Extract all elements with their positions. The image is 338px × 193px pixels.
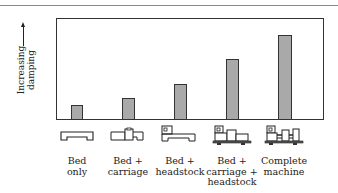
y-label-line-1: Increasing [16, 46, 26, 94]
label-line: machine [254, 167, 314, 178]
label-line: Complete [254, 156, 314, 167]
category-label-bed-carriage-headstock: Bed + carriage + headstock [202, 156, 262, 188]
label-line: headstock [150, 167, 210, 178]
bed-carriage-icon [109, 125, 147, 145]
top-rule [0, 5, 338, 6]
bar-bed-headstock [174, 84, 187, 119]
label-line: Bed + [202, 156, 262, 167]
bed-carriage-headstock-icon [211, 125, 253, 147]
bar-bed-only [71, 105, 83, 119]
category-label-bed-headstock: Bed + headstock [150, 156, 210, 177]
category-label-complete-machine: Complete machine [254, 156, 314, 177]
label-line: Bed + [98, 156, 158, 167]
label-line: carriage [98, 167, 158, 178]
category-label-bed-carriage: Bed + carriage [98, 156, 158, 177]
plot-area [56, 18, 324, 120]
y-label-line-2: damping [26, 46, 36, 94]
bed-icon [59, 125, 95, 145]
y-axis-label: Increasing damping [6, 30, 46, 110]
bar-bed-carriage [122, 98, 135, 119]
label-line: headstock [202, 177, 262, 188]
label-line: Bed + [150, 156, 210, 167]
bar-complete-machine [278, 35, 292, 119]
complete-machine-icon [263, 125, 305, 147]
bed-headstock-icon [160, 125, 198, 145]
bar-bed-carriage-headstock [226, 59, 239, 119]
